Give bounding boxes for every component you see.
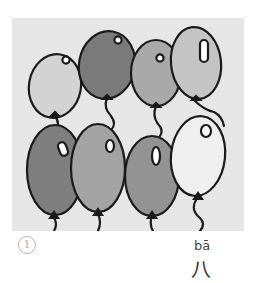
balloons-drawing: [12, 18, 244, 231]
question-number: 1: [18, 236, 36, 254]
hanzi-character: 八: [191, 254, 211, 283]
balloon-illustration: [12, 18, 244, 231]
pinyin-label: bā: [194, 238, 210, 253]
